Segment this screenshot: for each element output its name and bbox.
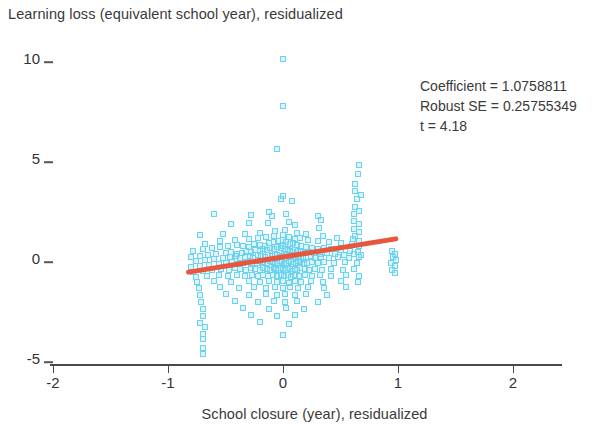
scatter-point <box>232 237 238 243</box>
scatter-point <box>281 261 287 267</box>
scatter-point <box>218 266 224 272</box>
scatter-point <box>392 263 398 269</box>
scatter-point <box>285 247 291 253</box>
scatter-point <box>266 306 272 312</box>
scatter-point <box>194 279 200 285</box>
scatter-point <box>260 246 266 252</box>
scatter-point <box>356 243 362 249</box>
scatter-point <box>292 312 298 318</box>
scatter-point <box>257 258 263 264</box>
scatter-point <box>274 292 280 298</box>
scatter-point <box>266 240 272 246</box>
scatter-point <box>200 313 206 319</box>
scatter-point <box>233 253 239 259</box>
scatter-point <box>326 239 332 245</box>
scatter-point <box>302 266 308 272</box>
scatter-point <box>244 259 250 265</box>
scatter-point <box>321 245 327 251</box>
scatter-point <box>206 262 212 268</box>
scatter-point <box>232 265 238 271</box>
scatter-point <box>283 305 289 311</box>
scatter-point <box>225 273 231 279</box>
scatter-point <box>237 255 243 261</box>
scatter-point <box>319 267 325 273</box>
scatter-point <box>349 241 355 247</box>
scatter-point <box>262 254 268 260</box>
scatter-point <box>315 246 321 252</box>
scatter-point <box>392 270 398 276</box>
scatter-point <box>240 243 246 249</box>
scatter-point <box>255 273 261 279</box>
x-tick-mark <box>283 365 284 373</box>
scatter-point <box>306 249 312 255</box>
scatter-point <box>290 252 296 258</box>
scatter-point <box>262 243 268 249</box>
scatter-point <box>211 256 217 262</box>
scatter-point <box>266 209 272 215</box>
scatter-point <box>294 298 300 304</box>
scatter-point <box>220 255 226 261</box>
scatter-point <box>246 220 252 226</box>
scatter-point <box>280 193 286 199</box>
scatter-point <box>296 253 302 259</box>
scatter-point <box>332 251 338 257</box>
scatter-point <box>202 324 208 330</box>
scatter-point <box>197 232 203 238</box>
scatter-point <box>236 285 242 291</box>
x-axis-line <box>50 364 562 366</box>
scatter-point <box>295 285 301 291</box>
scatter-point <box>200 306 206 312</box>
scatter-point <box>252 266 258 272</box>
scatter-point <box>317 272 323 278</box>
scatter-point <box>295 258 301 264</box>
scatter-point <box>316 225 322 231</box>
scatter-point <box>200 331 206 337</box>
regression-fit-line <box>185 236 398 275</box>
scatter-point <box>265 273 271 279</box>
scatter-point <box>265 252 271 258</box>
scatter-point <box>355 249 361 255</box>
scatter-point <box>226 267 232 273</box>
scatter-point <box>240 305 246 311</box>
scatter-point <box>309 245 315 251</box>
scatter-point <box>200 336 206 342</box>
scatter-point <box>223 291 229 297</box>
y-tick-mark <box>44 61 53 63</box>
scatter-point <box>298 249 304 255</box>
scatter-point <box>315 260 321 266</box>
scatter-point <box>286 321 292 327</box>
y-tick-label: 10 <box>0 50 40 67</box>
scatter-point <box>269 253 275 259</box>
scatter-point <box>263 234 269 240</box>
scatter-point <box>213 251 219 257</box>
scatter-point <box>257 319 263 325</box>
scatter-point <box>283 252 289 258</box>
scatter-point <box>302 272 308 278</box>
scatter-point <box>271 265 277 271</box>
scatter-point <box>286 280 292 286</box>
scatter-point <box>286 234 292 240</box>
scatter-point <box>271 239 277 245</box>
scatter-point <box>217 244 223 250</box>
scatter-point <box>202 241 208 247</box>
scatter-point <box>305 284 311 290</box>
scatter-point <box>341 252 347 258</box>
y-tick-mark <box>44 261 53 263</box>
scatter-point <box>190 248 196 254</box>
scatter-point <box>197 263 203 269</box>
scatter-point <box>292 236 298 242</box>
scatter-point <box>264 266 270 272</box>
scatter-point <box>205 252 211 258</box>
scatter-point <box>351 251 357 257</box>
scatter-point <box>263 285 269 291</box>
scatter-point <box>228 279 234 285</box>
scatter-point <box>324 250 330 256</box>
scatter-point <box>297 235 303 241</box>
scatter-point <box>281 273 287 279</box>
scatter-point <box>283 260 289 266</box>
scatter-point <box>232 298 238 304</box>
scatter-point <box>389 267 395 273</box>
scatter-point <box>280 285 286 291</box>
scatter-point <box>258 253 264 259</box>
scatter-point <box>251 241 257 247</box>
